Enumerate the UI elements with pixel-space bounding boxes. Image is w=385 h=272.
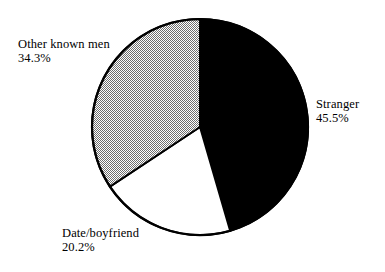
pie-label-stranger-value: 45.5% — [316, 111, 359, 125]
pie-label-other-known-men-value: 34.3% — [18, 51, 110, 65]
pie-label-stranger-text: Stranger — [316, 97, 359, 111]
pie-label-date-boyfriend: Date/boyfriend 20.2% — [62, 226, 139, 254]
pie-label-date-boyfriend-text: Date/boyfriend — [62, 226, 139, 240]
pie-label-other-known-men: Other known men 34.3% — [18, 37, 110, 65]
pie-label-date-boyfriend-value: 20.2% — [62, 240, 139, 254]
pie-label-stranger: Stranger 45.5% — [316, 97, 359, 125]
pie-label-other-known-men-text: Other known men — [18, 37, 110, 51]
pie-chart-figure: Other known men 34.3% Stranger 45.5% Dat… — [0, 0, 385, 272]
